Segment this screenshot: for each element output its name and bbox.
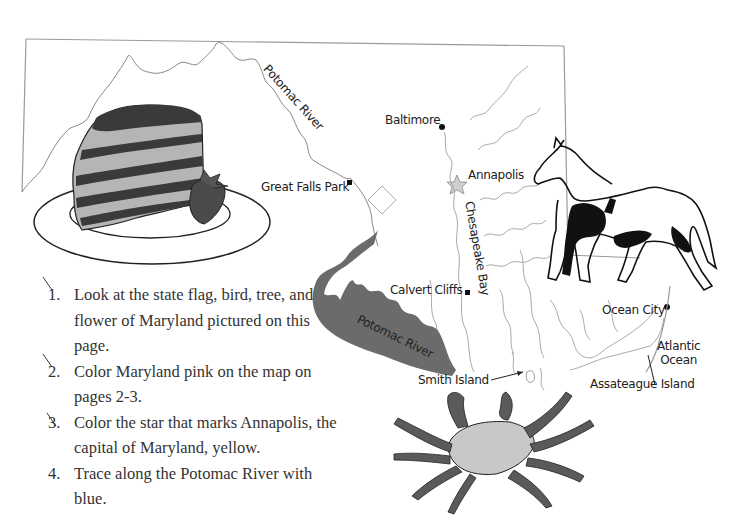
label-great-falls-park: Great Falls Park [261, 180, 349, 194]
label-assateague-island: Assateague Island [590, 377, 695, 391]
instruction-item-4: 4. Trace along the Potomac River with bl… [48, 461, 348, 512]
instruction-item-1: 1. Look at the state flag, bird, tree, a… [48, 282, 348, 359]
instruction-number: 4. [48, 461, 74, 512]
pinto-horse [534, 138, 716, 290]
label-atlantic-ocean: Atlantic Ocean [657, 339, 700, 367]
calvert-cliffs-marker [465, 290, 470, 295]
label-baltimore: Baltimore [385, 113, 440, 127]
instruction-item-2: 2. Color Maryland pink on the map on pag… [48, 359, 348, 410]
instructions-list: 1. Look at the state flag, bird, tree, a… [48, 282, 348, 512]
instruction-text: Trace along the Potomac River with blue. [74, 461, 348, 512]
checkmark-icon [46, 412, 60, 430]
label-calvert-cliffs: Calvert Cliffs [390, 283, 463, 297]
atlantic-line1: Atlantic [657, 339, 700, 353]
checkmark-icon [42, 353, 56, 371]
checkmark-icon [42, 276, 56, 294]
instruction-text: Look at the state flag, bird, tree, and … [74, 282, 348, 359]
dc-diamond [368, 186, 396, 214]
label-annapolis: Annapolis [468, 168, 524, 182]
label-ocean-city: Ocean City [602, 303, 665, 317]
atlantic-line2: Ocean [660, 353, 697, 367]
chesapeake-shoreline [430, 66, 664, 390]
blue-crab [394, 392, 594, 514]
instruction-text: Color Maryland pink on the map on pages … [74, 359, 348, 410]
horse-black-patches [562, 198, 692, 276]
smith-island-shape [526, 371, 534, 383]
label-smith-island: Smith Island [418, 373, 489, 387]
instruction-item-3: 3. Color the star that marks Annapolis, … [48, 410, 348, 461]
instruction-text: Color the star that marks Annapolis, the… [74, 410, 348, 461]
